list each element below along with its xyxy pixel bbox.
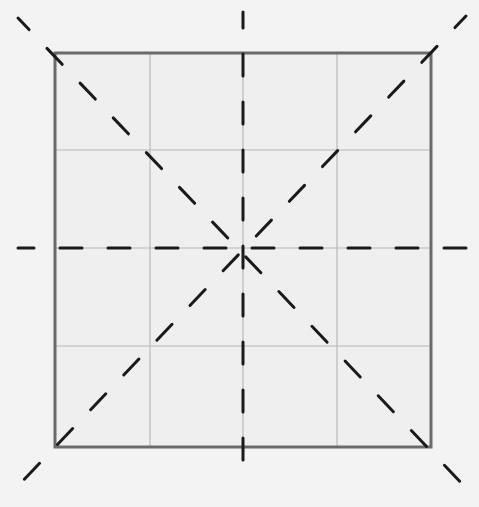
grid-diagram (0, 0, 479, 507)
diagram-canvas (0, 0, 479, 507)
